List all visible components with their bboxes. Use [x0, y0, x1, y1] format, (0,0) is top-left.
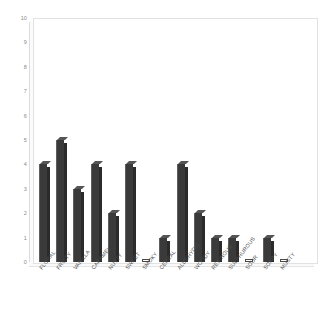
bar-side-face	[64, 143, 67, 262]
bar-chart: 109876543210 FLORALFRUITYVANILLACARAMELN…	[0, 0, 328, 323]
y-axis-tick-6: 6	[3, 113, 27, 119]
y-axis-tick-4: 4	[3, 161, 27, 167]
y-axis-tick-5: 5	[3, 137, 27, 143]
x-axis: FLORALFRUITYVANILLACARAMELNUTTYSWEETSMOK…	[33, 267, 318, 323]
bar-top-face	[92, 161, 103, 164]
bar-top-face	[74, 186, 85, 189]
y-axis-tick-7: 7	[3, 88, 27, 94]
bar-slot	[36, 18, 53, 267]
y-axis-tick-1: 1	[3, 235, 27, 241]
bar-top-face	[178, 161, 189, 164]
y-axis-tick-3: 3	[3, 186, 27, 192]
bar-top-face	[57, 137, 68, 140]
bar-side-face	[185, 167, 188, 262]
y-axis-tick-8: 8	[3, 64, 27, 70]
bar-top-face	[40, 161, 51, 164]
y-axis-tick-9: 9	[3, 39, 27, 45]
bar-side-face	[99, 167, 102, 262]
bar-top-face	[109, 210, 120, 213]
bar-side-face	[133, 167, 136, 262]
y-axis: 109876543210	[0, 10, 33, 272]
y-axis-tick-10: 10	[3, 15, 27, 21]
bar[interactable]	[39, 164, 47, 262]
bar-side-face	[47, 167, 50, 262]
y-axis-tick-2: 2	[3, 210, 27, 216]
bar-top-face	[126, 161, 137, 164]
y-axis-tick-0: 0	[3, 259, 27, 265]
bar-top-face	[195, 210, 206, 213]
